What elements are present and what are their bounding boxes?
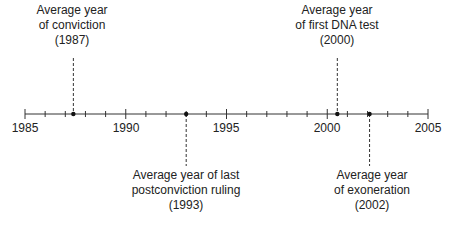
label-line: Average year of last	[132, 168, 241, 183]
label-line: Average year	[36, 3, 107, 18]
event-marker-last-postconviction-ruling	[184, 112, 188, 116]
label-line: of conviction	[36, 18, 107, 33]
label-line: (2002)	[334, 198, 410, 213]
event-label-first-dna-test: Average year of first DNA test (2000)	[295, 3, 378, 48]
label-line: postconviction ruling	[132, 183, 241, 198]
axis-label-1995: 1995	[213, 121, 240, 135]
event-marker-conviction	[71, 112, 75, 116]
event-label-postconviction-ruling: Average year of last postconviction ruli…	[132, 168, 241, 213]
event-label-exoneration: Average year of exoneration (2002)	[334, 168, 410, 213]
axis-label-1985: 1985	[12, 121, 39, 135]
label-line: (1987)	[36, 33, 107, 48]
label-line: (1993)	[132, 198, 241, 213]
axis-label-1990: 1990	[113, 121, 140, 135]
label-line: (2000)	[295, 33, 378, 48]
label-line: Average year	[334, 168, 410, 183]
event-marker-exoneration	[367, 112, 371, 116]
axis-label-2005: 2005	[415, 121, 442, 135]
event-leader-lines	[73, 58, 369, 166]
label-line: Average year	[295, 3, 378, 18]
axis-label-2000: 2000	[314, 121, 341, 135]
label-line: of first DNA test	[295, 18, 378, 33]
event-marker-first-dna-test	[335, 112, 339, 116]
event-label-conviction: Average year of conviction (1987)	[36, 3, 107, 48]
label-line: of exoneration	[334, 183, 410, 198]
